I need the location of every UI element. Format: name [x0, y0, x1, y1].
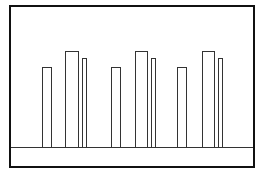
- bar-group-1-bar-2: [65, 51, 79, 148]
- bar-group-1-bar-3: [82, 58, 87, 148]
- bar-group-2-bar-2: [135, 51, 148, 148]
- bar-group-3-bar-2: [202, 51, 215, 148]
- bar-group-1-bar-1: [42, 67, 52, 148]
- bar-group-3-bar-1: [177, 67, 187, 148]
- bar-group-3-bar-3: [218, 58, 223, 148]
- bar-group-2-bar-1: [111, 67, 121, 148]
- bar-group-2-bar-3: [151, 58, 156, 148]
- baseline: [11, 147, 253, 148]
